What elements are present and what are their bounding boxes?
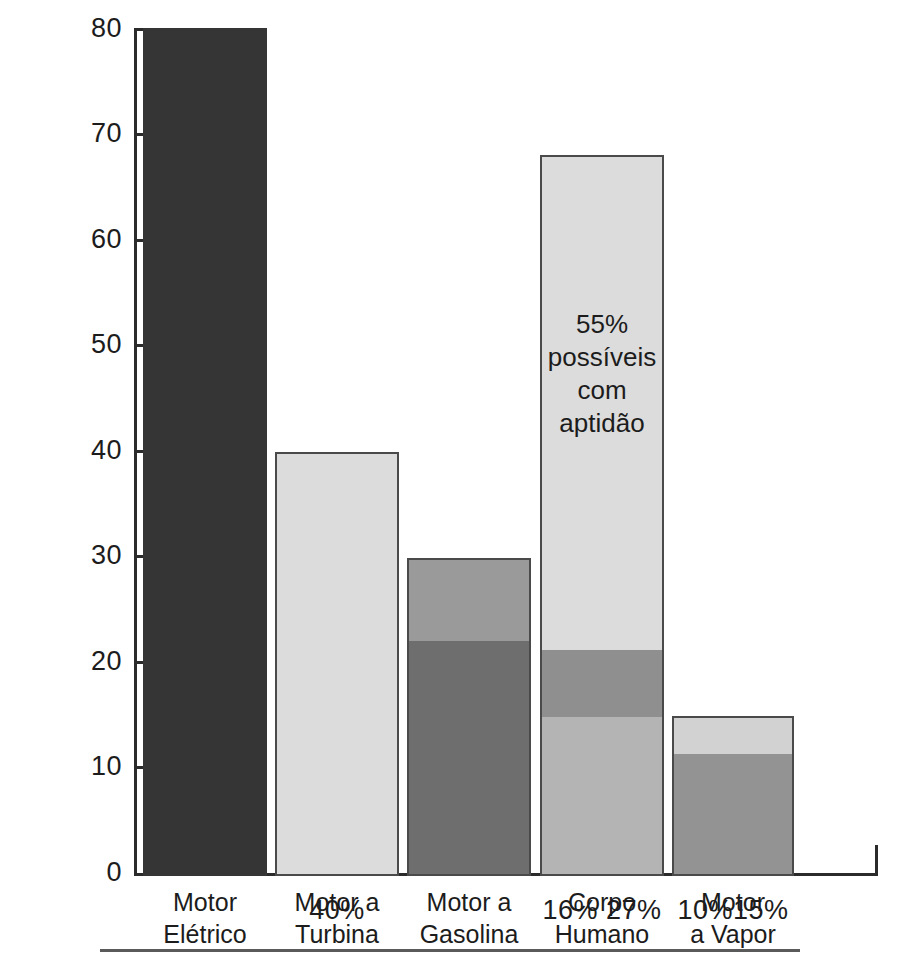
category-label-corpo-humano: Corpo Humano: [540, 886, 664, 950]
bar-note-line-3: com: [577, 375, 626, 405]
category-label-motor-eletrico: Motor Elétrico: [143, 886, 267, 950]
bar-motor-gasolina: [407, 558, 531, 876]
category-label-line-2: a Vapor: [672, 918, 794, 950]
category-label-motor-gasolina: Motor a Gasolina: [407, 886, 531, 950]
bar-motor-turbina: [275, 452, 399, 876]
category-label-line-1: Corpo: [540, 886, 664, 918]
category-label-line-2: Elétrico: [143, 918, 267, 950]
bar-segment-vapor-upper: [674, 718, 792, 754]
bar-note-line-4: aptidão: [559, 408, 644, 438]
category-label-line-1: Motor: [143, 886, 267, 918]
category-label-motor-vapor: Motor a Vapor: [672, 886, 794, 950]
bar-segment-gasolina-upper: [409, 560, 529, 641]
category-label-line-1: Motor a: [407, 886, 531, 918]
footer-rule: [100, 949, 800, 952]
bar-segment-eletrico-80: [145, 30, 265, 874]
bar-segment-gasolina-lower: [409, 641, 529, 876]
bar-note-corpo-humano: 55% possíveis com aptidão: [540, 308, 664, 440]
category-label-motor-turbina: Motor a Turbina: [275, 886, 399, 950]
category-label-line-2: Gasolina: [407, 918, 531, 950]
category-label-line-2: Humano: [540, 918, 664, 950]
bar-note-line-1: 55%: [576, 309, 628, 339]
category-label-line-1: Motor: [672, 886, 794, 918]
bar-segment-turbina-40: [277, 454, 397, 874]
bar-corpo-humano: [540, 155, 664, 876]
bar-segment-vapor-lower: [674, 754, 792, 876]
bar-motor-vapor: [672, 716, 794, 876]
bar-motor-eletrico: [143, 28, 267, 876]
efficiency-bar-chart: 80 70 60 50 40 30 20 10 0 80% 40%: [0, 0, 900, 963]
bar-segment-humano-lower: [542, 717, 662, 876]
bar-note-line-2: possíveis: [548, 342, 656, 372]
plot-area: 80% 40% 20% 30% 55% possíveis com aptidã…: [0, 0, 900, 963]
category-label-line-1: Motor a: [275, 886, 399, 918]
bar-segment-humano-middle: [542, 650, 662, 717]
category-label-line-2: Turbina: [275, 918, 399, 950]
x-axis-category-labels: Motor Elétrico Motor a Turbina Motor a G…: [0, 886, 900, 956]
